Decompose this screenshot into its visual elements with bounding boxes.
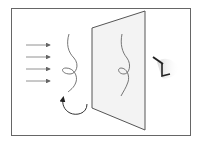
twisted-wire-icon — [63, 34, 77, 92]
eye-icon — [153, 57, 180, 79]
rotate-counterclockwise-icon — [63, 99, 87, 114]
light-rays — [26, 45, 50, 81]
diagram-canvas — [0, 0, 201, 146]
diagram-svg — [0, 0, 201, 146]
